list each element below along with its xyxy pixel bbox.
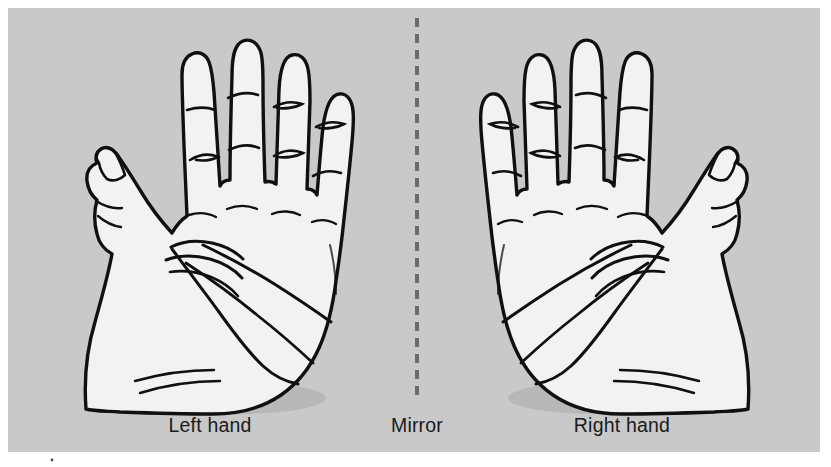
left-hand-label: Left hand <box>168 414 251 436</box>
right-hand-label: Right hand <box>574 414 670 436</box>
figure-root: Left hand Mirror Right hand <box>0 0 831 467</box>
mirror-label: Mirror <box>391 414 443 436</box>
print-speck <box>51 459 54 462</box>
hand-mirror-diagram: Left hand Mirror Right hand <box>0 0 831 467</box>
